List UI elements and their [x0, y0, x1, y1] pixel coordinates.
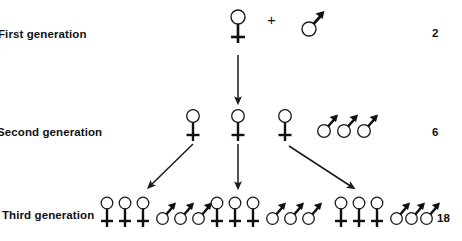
female-symbol [349, 196, 369, 230]
female-symbol [243, 196, 263, 230]
female-symbol [225, 196, 245, 230]
plus-sign: + [267, 12, 276, 27]
count-second-generation: 6 [432, 126, 438, 138]
row-label-second-generation: Second generation [0, 126, 102, 138]
arrow-gen2-left-to-gen3 [150, 144, 193, 186]
female-symbol [115, 196, 135, 230]
row-label-first-generation: First generation [0, 28, 87, 40]
female-symbol [226, 8, 250, 46]
female-symbol [133, 196, 153, 230]
male-symbol [300, 8, 326, 38]
female-symbol [182, 108, 204, 144]
female-symbol [227, 108, 249, 144]
pedigree-diagram: First generation + 2 Second generation [0, 0, 462, 241]
male-symbol [356, 110, 380, 140]
male-symbol [301, 198, 324, 227]
female-symbol [367, 196, 387, 230]
female-symbol [207, 196, 227, 230]
female-symbol [331, 196, 351, 230]
count-third-generation: 18 [437, 212, 450, 224]
arrow-gen2-right-to-gen3 [289, 146, 352, 187]
female-symbol [97, 196, 117, 230]
count-first-generation: 2 [432, 27, 438, 39]
row-label-third-generation: Third generation [2, 209, 94, 221]
female-symbol [274, 108, 296, 144]
